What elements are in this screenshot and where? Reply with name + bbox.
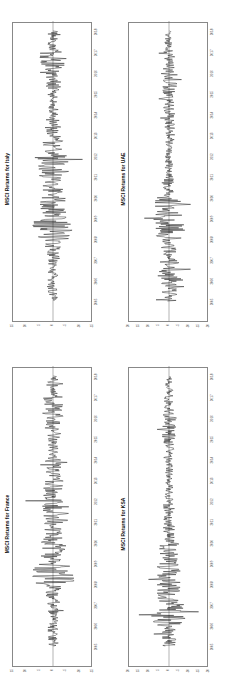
x-tick-label: 2011: [210, 174, 214, 180]
y-tick-label: 10: [23, 324, 27, 327]
x-tick-label: 2014: [94, 112, 98, 119]
x-tick-label: 2018: [94, 29, 98, 36]
figure: MSCI Returns for KSA 20151050-5-10-15-20…: [0, 0, 231, 689]
x-tick-label: 2012: [210, 498, 214, 505]
x-tick-label: 2018: [210, 374, 214, 381]
x-tick-label: 2009: [94, 216, 98, 223]
x-tick-label: 2011: [94, 174, 98, 180]
x-tick-label: 2011: [210, 519, 214, 525]
y-tick-label: 5: [156, 324, 160, 326]
x-axis: 2005200620072008200920102011201220132014…: [210, 367, 218, 667]
x-tick-label: 2017: [94, 394, 98, 401]
x-tick-label: 2008: [210, 236, 214, 243]
chart-title: MSCI Returns for France: [4, 359, 10, 689]
x-tick-label: 2014: [94, 457, 98, 464]
y-tick-label: -20: [206, 669, 210, 673]
panel-italy: MSCI Returns for Italy 151050-5-10-15 20…: [2, 14, 112, 344]
x-tick-label: 2007: [94, 257, 98, 264]
chart-title: MSCI Returns for UAE: [120, 14, 126, 344]
y-axis: 151050-5-10-15: [12, 669, 92, 683]
x-tick-label: 2007: [210, 257, 214, 264]
y-tick-label: 5: [37, 324, 41, 326]
x-tick-label: 2006: [94, 278, 98, 285]
x-tick-label: 2017: [210, 394, 214, 401]
y-tick-label: -10: [77, 669, 81, 673]
x-tick-label: 2005: [210, 299, 214, 306]
x-tick-label: 2007: [210, 602, 214, 609]
plot-area: [128, 22, 208, 322]
x-tick-label: 2015: [94, 91, 98, 98]
y-tick-label: 0: [166, 669, 170, 671]
x-tick-label: 2014: [210, 457, 214, 464]
panel-france: MSCI Returns for France 151050-5-10-15 2…: [2, 359, 112, 689]
y-tick-label: 0: [166, 324, 170, 326]
plot-area: [12, 22, 92, 322]
panel-ksa: MSCI Returns for KSA 20151050-5-10-15-20…: [118, 359, 228, 689]
x-axis: 2005200620072008200920102011201220132014…: [94, 367, 102, 667]
y-tick-label: 15: [10, 669, 14, 672]
x-tick-label: 2009: [210, 561, 214, 568]
y-tick-label: 15: [10, 324, 14, 327]
x-tick-label: 2009: [94, 561, 98, 568]
y-tick-label: 10: [23, 669, 27, 672]
x-tick-label: 2014: [210, 112, 214, 119]
y-tick-label: -15: [196, 669, 200, 673]
y-tick-label: 15: [136, 669, 140, 672]
x-tick-label: 2012: [94, 498, 98, 505]
x-tick-label: 2016: [94, 415, 98, 422]
panel-uae: MSCI Returns for UAE 20151050-5-10-15-20…: [118, 14, 228, 344]
x-tick-label: 2006: [94, 623, 98, 630]
x-tick-label: 2015: [94, 436, 98, 443]
x-tick-label: 2006: [210, 623, 214, 630]
x-tick-label: 2010: [210, 195, 214, 202]
chart-title: MSCI Returns for KSA: [120, 359, 126, 689]
x-tick-label: 2016: [210, 70, 214, 77]
x-tick-label: 2008: [210, 581, 214, 588]
chart-title: MSCI Returns for Italy: [4, 14, 10, 344]
y-tick-label: 10: [146, 324, 150, 327]
y-tick-label: -15: [196, 324, 200, 328]
y-tick-label: -15: [90, 324, 94, 328]
y-tick-label: -20: [206, 324, 210, 328]
y-tick-label: -5: [63, 669, 67, 672]
y-tick-label: -10: [77, 324, 81, 328]
x-tick-label: 2010: [94, 195, 98, 202]
x-tick-label: 2018: [94, 374, 98, 381]
x-tick-label: 2017: [94, 49, 98, 56]
x-tick-label: 2013: [94, 133, 98, 140]
y-tick-label: 10: [146, 669, 150, 672]
y-tick-label: -10: [186, 669, 190, 673]
x-axis: 2005200620072008200920102011201220132014…: [210, 22, 218, 322]
x-axis: 2005200620072008200920102011201220132014…: [94, 22, 102, 322]
y-axis: 20151050-5-10-15-20: [128, 324, 208, 338]
x-tick-label: 2012: [94, 153, 98, 160]
x-tick-label: 2009: [210, 216, 214, 223]
x-tick-label: 2012: [210, 153, 214, 160]
plot-area: [128, 367, 208, 667]
x-tick-label: 2005: [94, 644, 98, 651]
y-tick-label: -5: [63, 324, 67, 327]
x-tick-label: 2015: [210, 91, 214, 98]
x-tick-label: 2008: [94, 236, 98, 243]
x-tick-label: 2005: [94, 299, 98, 306]
plot-area: [12, 367, 92, 667]
x-tick-label: 2008: [94, 581, 98, 588]
x-tick-label: 2007: [94, 602, 98, 609]
y-axis: 151050-5-10-15: [12, 324, 92, 338]
y-tick-label: 15: [136, 324, 140, 327]
y-tick-label: 20: [126, 324, 130, 327]
y-tick-label: 5: [37, 669, 41, 671]
y-tick-label: -10: [186, 324, 190, 328]
x-tick-label: 2010: [94, 540, 98, 547]
y-tick-label: 5: [156, 669, 160, 671]
x-tick-label: 2016: [210, 415, 214, 422]
x-tick-label: 2016: [94, 70, 98, 77]
x-tick-label: 2018: [210, 29, 214, 36]
y-tick-label: -15: [90, 669, 94, 673]
x-tick-label: 2015: [210, 436, 214, 443]
x-tick-label: 2005: [210, 644, 214, 651]
y-axis: 20151050-5-10-15-20: [128, 669, 208, 683]
x-tick-label: 2006: [210, 278, 214, 285]
x-tick-label: 2011: [94, 519, 98, 525]
y-tick-label: -5: [176, 669, 180, 672]
